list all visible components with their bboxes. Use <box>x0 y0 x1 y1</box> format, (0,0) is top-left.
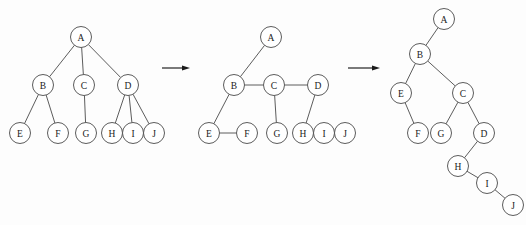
node-B: B <box>410 44 431 65</box>
node-E: E <box>199 123 220 144</box>
node-label-A: A <box>441 15 448 25</box>
node-label-E: E <box>17 129 23 139</box>
node-J: J <box>503 195 524 216</box>
transform-arrow-1 <box>162 65 190 70</box>
edge-A-C <box>82 47 84 74</box>
node-label-I: I <box>485 179 488 189</box>
binary-tree-result-nodes: ABECFGDHIJ <box>391 9 524 216</box>
node-G: G <box>76 123 97 144</box>
node-label-D: D <box>125 81 132 91</box>
node-D: D <box>308 75 329 96</box>
edge-A-B <box>50 45 75 77</box>
node-label-C: C <box>271 81 277 91</box>
node-label-E: E <box>398 89 404 99</box>
node-H: H <box>293 123 314 144</box>
edge-A-B <box>240 45 264 76</box>
node-label-C: C <box>81 81 87 91</box>
node-F: F <box>408 123 429 144</box>
node-label-H: H <box>109 129 116 139</box>
node-label-D: D <box>315 81 322 91</box>
edge-A-D <box>88 45 120 78</box>
arrows-layer <box>162 65 380 70</box>
binary-tree-result: ABECFGDHIJ <box>391 9 524 216</box>
node-J: J <box>335 123 356 144</box>
node-label-D: D <box>481 129 488 139</box>
edge-D-H <box>465 141 478 158</box>
node-label-G: G <box>274 129 281 139</box>
edge-D-I <box>129 95 132 122</box>
edge-C-G <box>446 102 458 124</box>
node-F: F <box>48 123 69 144</box>
node-C: C <box>453 83 474 104</box>
node-label-H: H <box>300 129 307 139</box>
left-child-right-sibling-linkage-nodes: ABCDEFGHIJ <box>199 27 356 144</box>
node-label-A: A <box>78 33 85 43</box>
edge-H-I <box>467 171 478 177</box>
transform-arrow-2-head <box>372 65 380 70</box>
node-I: I <box>123 123 144 144</box>
edge-C-D <box>468 102 479 123</box>
node-label-E: E <box>206 129 212 139</box>
node-G: G <box>267 123 288 144</box>
figure-root: ABCDEFGHIJABCDEFGHIJABECFGDHIJ <box>0 0 526 225</box>
node-A: A <box>434 9 455 30</box>
node-label-J: J <box>152 129 156 139</box>
node-label-I: I <box>322 129 325 139</box>
node-I: I <box>477 173 498 194</box>
node-label-J: J <box>343 129 347 139</box>
node-label-I: I <box>131 129 134 139</box>
node-C: C <box>264 75 285 96</box>
left-child-right-sibling-linkage: ABCDEFGHIJ <box>199 27 356 144</box>
tree-transformation-diagram: ABCDEFGHIJABCDEFGHIJABECFGDHIJ <box>0 0 526 225</box>
node-label-A: A <box>268 33 275 43</box>
node-label-B: B <box>40 81 46 91</box>
edge-B-E <box>406 63 416 83</box>
node-C: C <box>74 75 95 96</box>
transform-arrow-2 <box>348 65 380 70</box>
edge-B-F <box>46 95 55 123</box>
node-A: A <box>71 27 92 48</box>
general-tree: ABCDEFGHIJ <box>10 27 165 144</box>
edge-C-G <box>275 95 277 122</box>
node-B: B <box>224 75 245 96</box>
node-D: D <box>474 123 495 144</box>
node-label-F: F <box>244 129 249 139</box>
node-label-C: C <box>460 89 466 99</box>
node-E: E <box>10 123 31 144</box>
edge-B-C <box>428 61 455 86</box>
edge-B-E <box>214 94 229 123</box>
node-D: D <box>118 75 139 96</box>
node-J: J <box>144 123 165 144</box>
node-label-F: F <box>415 129 420 139</box>
node-A: A <box>261 27 282 48</box>
edge-E-F <box>405 103 414 124</box>
node-label-G: G <box>83 129 90 139</box>
general-tree-nodes: ABCDEFGHIJ <box>10 27 165 144</box>
node-label-B: B <box>231 81 237 91</box>
edge-D-H <box>115 95 124 123</box>
node-label-G: G <box>438 129 445 139</box>
node-label-J: J <box>511 201 515 211</box>
node-B: B <box>33 75 54 96</box>
node-H: H <box>448 156 469 177</box>
edge-C-G <box>84 95 85 122</box>
node-label-F: F <box>55 129 60 139</box>
node-H: H <box>102 123 123 144</box>
edge-D-H <box>306 95 315 123</box>
edge-A-B <box>426 28 438 46</box>
node-F: F <box>237 123 258 144</box>
edge-B-E <box>25 94 39 123</box>
node-label-B: B <box>417 50 423 60</box>
panels-layer: ABCDEFGHIJABCDEFGHIJABECFGDHIJ <box>10 9 524 216</box>
edge-I-J <box>495 190 505 198</box>
transform-arrow-1-head <box>182 65 190 70</box>
edge-D-J <box>133 94 149 124</box>
node-I: I <box>314 123 335 144</box>
node-label-H: H <box>455 162 462 172</box>
node-G: G <box>431 123 452 144</box>
node-E: E <box>391 83 412 104</box>
